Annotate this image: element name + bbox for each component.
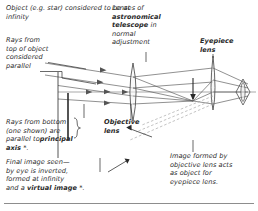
label-rays-from-top: Rays from top of object considered paral… [6,36,76,70]
lenses-text-pre: Lenses of [112,4,144,12]
final-image-text-post: *. [77,184,85,192]
intermediate-image-arrow [190,78,196,101]
incident-ray-lower-arrowhead [104,101,111,106]
label-eyepiece-lens: Eyepiece lens [200,37,252,54]
final-image-text-bold: virtual image [27,184,77,192]
telescope-ray-diagram-figure: Object (e.g. star) considered to be at i… [0,0,258,211]
rays-from-bottom-text-post: *. [21,144,29,152]
eyepiece-lens [211,56,215,110]
incident-rays-lower-bundle [58,99,133,104]
figure-bottom-rule [4,203,254,204]
label-objective-lens: Objective lens [104,118,156,135]
refracted-rays-to-intermediate-image [133,77,193,104]
upper-ray-family-to-eyepiece [133,68,213,88]
label-lenses-of-telescope: Lenses of astronomical telescope in norm… [112,4,180,47]
label-rays-from-bottom: Rays from bottom (one shown) are paralle… [6,118,84,152]
label-final-image: Final image seen— by eye is inverted, fo… [6,158,98,192]
label-image-formed-by-objective: Image formed by objective lens acts as o… [170,152,256,186]
